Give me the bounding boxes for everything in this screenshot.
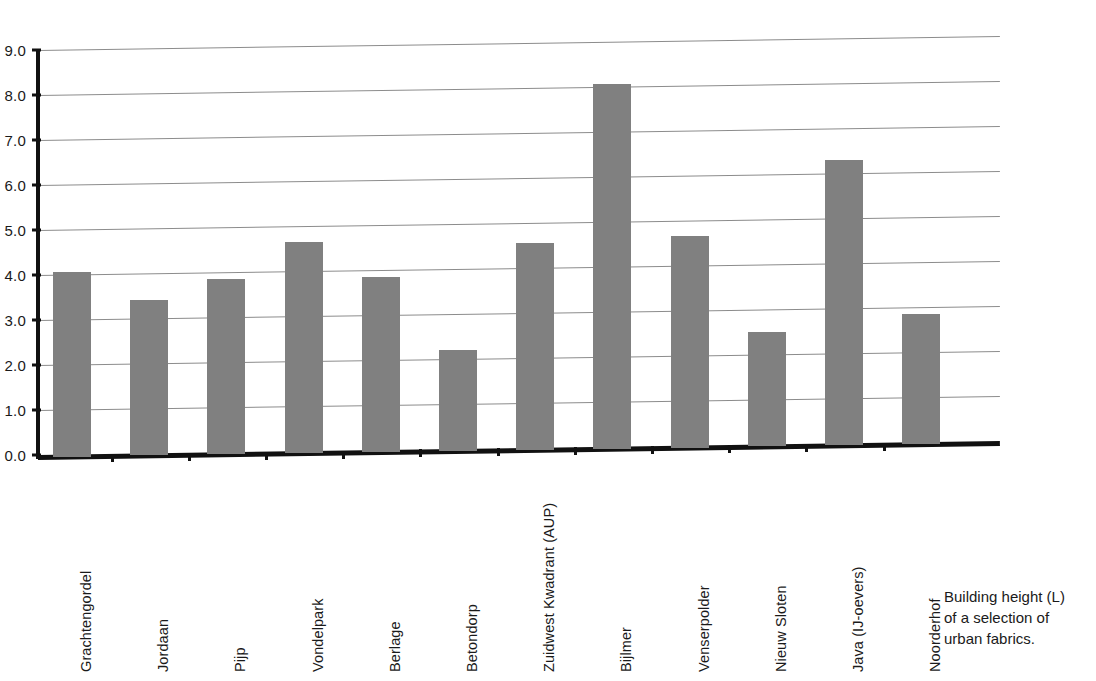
bar-chart: 9.08.07.06.05.04.03.02.01.00.0 Grachteng… [0, 0, 1096, 681]
bar [439, 350, 477, 451]
x-axis-tick [651, 446, 654, 454]
y-axis-tick-label: 5.0 [0, 222, 26, 239]
x-axis-tick [419, 449, 422, 457]
x-axis-tick-label: Noorderhof [927, 598, 943, 672]
y-axis-tick [32, 49, 41, 52]
x-axis-tick-label: Jordaan [155, 619, 171, 672]
x-axis-tick-label: Grachtengordel [78, 571, 94, 672]
x-axis-tick [883, 443, 886, 451]
bar [285, 242, 323, 453]
x-axis-tick [574, 447, 577, 455]
bar [516, 243, 554, 450]
x-axis-tick [265, 452, 268, 460]
y-axis-tick [32, 94, 41, 97]
y-axis-tick-label: 1.0 [0, 402, 26, 419]
y-axis-line [36, 50, 40, 459]
chart-page: 9.08.07.06.05.04.03.02.01.00.0 Grachteng… [0, 0, 1096, 681]
x-axis-tick [342, 451, 345, 459]
chart-caption: Building height (L) of a selection of ur… [944, 586, 1094, 649]
x-axis-tick-label: Bijlmer [618, 627, 634, 672]
gridline [38, 126, 1000, 141]
y-axis-tick-label: 3.0 [0, 312, 26, 329]
bar [748, 332, 786, 447]
x-axis-tick-label: Venserpolder [696, 585, 712, 672]
bar [362, 277, 400, 452]
bar [671, 236, 709, 447]
y-axis-tick [32, 319, 41, 322]
y-axis-tick-label: 6.0 [0, 177, 26, 194]
bar [902, 314, 940, 444]
x-axis-tick [497, 448, 500, 456]
y-axis-tick [32, 184, 41, 187]
caption-line-1: Building height (L) [944, 586, 1094, 607]
x-axis-tick-label: Java (IJ-oevers) [850, 566, 866, 672]
x-axis-tick [805, 444, 808, 452]
y-axis-tick-label: 4.0 [0, 267, 26, 284]
caption-line-2: of a selection of [944, 607, 1094, 628]
bar [593, 84, 631, 448]
x-axis-tick-label: Zuidwest Kwadrant (AUP) [541, 503, 557, 672]
y-axis-tick [32, 139, 41, 142]
x-axis-tick [111, 454, 114, 462]
x-axis-tick-label: Berlage [387, 621, 403, 672]
x-axis-tick-label: Vondelpark [310, 598, 326, 672]
y-axis-tick [32, 364, 41, 367]
bar [207, 279, 245, 454]
x-axis-tick [728, 445, 731, 453]
y-axis-tick-label: 8.0 [0, 87, 26, 104]
x-axis-tick [188, 453, 191, 461]
y-axis-tick-label: 2.0 [0, 357, 26, 374]
y-axis-tick [32, 229, 41, 232]
gridline [38, 36, 1000, 51]
y-axis-tick-label: 9.0 [0, 42, 26, 59]
x-axis-tick-label: Pijp [232, 647, 248, 672]
bar [53, 272, 91, 456]
x-axis-tick-label: Betondorp [464, 604, 480, 672]
y-axis-tick-label: 7.0 [0, 132, 26, 149]
x-axis-tick-label: Nieuw Sloten [773, 585, 789, 672]
caption-line-3: urban fabrics. [944, 628, 1094, 649]
bar [130, 300, 168, 455]
y-axis-tick-label: 0.0 [0, 447, 26, 464]
y-axis-tick [32, 409, 41, 412]
bar [825, 160, 863, 446]
gridline [38, 81, 1000, 96]
y-axis-tick [32, 274, 41, 277]
